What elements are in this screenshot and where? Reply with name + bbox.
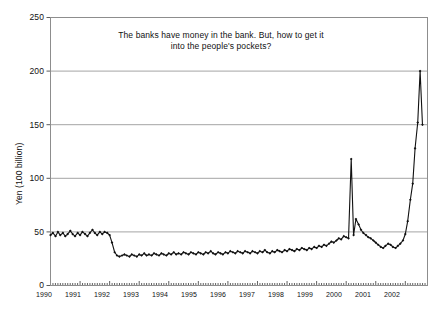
x-minor-ticks [51,281,428,286]
x-tick-label-2001: 2001 [355,291,371,298]
x-tick-label-1998: 1998 [268,291,284,298]
x-tick-label-1995: 1995 [181,291,197,298]
chart-title-line-2: into the people's pockets? [96,41,346,52]
x-tick-label-1999: 1999 [297,291,313,298]
x-tick-label-1992: 1992 [94,291,110,298]
x-tick-label-2000: 2000 [326,291,342,298]
chart-title: The banks have money in the bank. But, h… [96,30,346,52]
y-tick-label-250: 250 [18,12,44,22]
x-tick-label-1991: 1991 [65,291,81,298]
x-tick-label-1994: 1994 [152,291,168,298]
data-line-series-0 [51,71,423,256]
x-tick-label-1990: 1990 [36,291,52,298]
y-tick-label-200: 200 [18,66,44,76]
y-tick-label-0: 0 [18,280,44,290]
data-markers-series-0 [49,70,424,258]
gridlines [51,71,428,232]
chart-figure: Yen (100 billion) The banks have money i… [0,0,440,309]
y-tick-label-150: 150 [18,120,44,130]
x-tick-label-1996: 1996 [210,291,226,298]
plot-frame [51,18,428,286]
y-major-ticks [47,18,51,286]
chart-title-line-1: The banks have money in the bank. But, h… [96,30,346,41]
x-tick-label-1997: 1997 [239,291,255,298]
x-tick-label-2002: 2002 [384,291,400,298]
y-tick-label-50: 50 [18,227,44,237]
x-tick-label-1993: 1993 [123,291,139,298]
y-tick-label-100: 100 [18,173,44,183]
